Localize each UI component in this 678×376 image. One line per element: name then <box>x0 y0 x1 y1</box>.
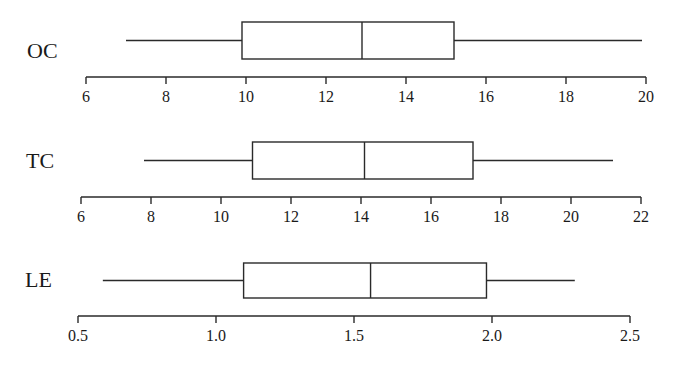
tick-label: 1.5 <box>344 327 364 344</box>
tick-label: 0.5 <box>68 327 88 344</box>
tick-label: 14 <box>353 208 369 225</box>
tick-label: 20 <box>638 88 654 105</box>
boxplot-figure: OC68101214161820TC6810121416182022LE0.51… <box>0 0 678 376</box>
iqr-box <box>244 263 487 298</box>
tick-label: 16 <box>423 208 439 225</box>
x-axis: 6810121416182022 <box>77 197 649 225</box>
tick-label: 18 <box>558 88 574 105</box>
tick-label: 14 <box>398 88 414 105</box>
row-label: OC <box>27 38 58 63</box>
x-axis: 68101214161820 <box>82 77 654 105</box>
tick-label: 6 <box>77 208 85 225</box>
boxplot-oc: OC68101214161820 <box>27 22 654 105</box>
tick-label: 22 <box>633 208 649 225</box>
tick-label: 20 <box>563 208 579 225</box>
row-label: TC <box>26 148 54 173</box>
boxplot-le: LE0.51.01.52.02.5 <box>25 263 640 344</box>
iqr-box <box>253 142 474 179</box>
boxplot-tc: TC6810121416182022 <box>26 142 649 225</box>
tick-label: 12 <box>318 88 334 105</box>
tick-label: 10 <box>213 208 229 225</box>
iqr-box <box>242 22 454 59</box>
row-label: LE <box>25 267 52 292</box>
tick-label: 2.5 <box>620 327 640 344</box>
x-axis: 0.51.01.52.02.5 <box>68 316 640 344</box>
tick-label: 8 <box>147 208 155 225</box>
tick-label: 2.0 <box>482 327 502 344</box>
tick-label: 18 <box>493 208 509 225</box>
tick-label: 8 <box>162 88 170 105</box>
tick-label: 12 <box>283 208 299 225</box>
tick-label: 16 <box>478 88 494 105</box>
tick-label: 1.0 <box>206 327 226 344</box>
tick-label: 6 <box>82 88 90 105</box>
tick-label: 10 <box>238 88 254 105</box>
